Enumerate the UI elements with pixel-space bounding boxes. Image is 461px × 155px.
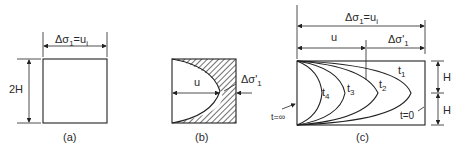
panel-b-caption: (b) <box>195 131 208 143</box>
t-zero-pointer <box>418 107 424 111</box>
panel-b: u Δσ'1 (b) <box>172 59 262 143</box>
consolidation-diagram: Δσ1=ui 2H (a) u Δσ'1 (b) Δσ1=ui <box>0 0 461 155</box>
panel-c-top-label: Δσ1=ui <box>345 11 378 26</box>
panel-c-u-label: u <box>331 31 337 43</box>
panel-c: Δσ1=ui u Δσ'1 t4 t3 t2 t1 t=∞ t=0 H H (c… <box>271 5 451 143</box>
label-t2: t2 <box>379 78 387 93</box>
label-lower-h: H <box>443 104 451 116</box>
label-t1: t1 <box>398 64 406 79</box>
label-t3: t3 <box>347 82 355 97</box>
label-t-infinity: t=∞ <box>271 112 285 122</box>
isochrone-t3 <box>297 61 345 125</box>
panel-c-stress-label: Δσ'1 <box>388 33 409 48</box>
soil-layer-box <box>43 59 107 123</box>
panel-a-height-label: 2H <box>9 83 23 95</box>
panel-b-u-label: u <box>194 76 200 88</box>
label-t4: t4 <box>322 86 330 101</box>
panel-a: Δσ1=ui 2H (a) <box>9 32 107 143</box>
panel-b-stress-label: Δσ'1 <box>241 73 262 88</box>
isochrone-t4 <box>297 61 322 125</box>
panel-a-caption: (a) <box>63 131 76 143</box>
t-infinity-pointer <box>282 104 295 109</box>
panel-c-caption: (c) <box>356 131 369 143</box>
label-t-zero: t=0 <box>400 110 415 121</box>
effective-stress-hatch <box>172 59 236 123</box>
label-upper-h: H <box>443 71 451 83</box>
